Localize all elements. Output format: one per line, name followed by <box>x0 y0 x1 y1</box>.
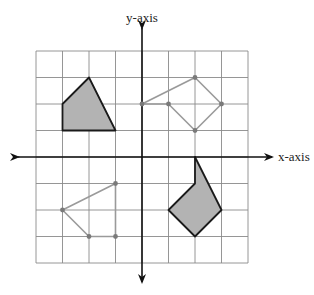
vertex-dot <box>113 181 118 186</box>
vertex-dot <box>140 102 145 107</box>
vertex-dot <box>113 234 118 239</box>
coordinate-plane: x-axis y-axis <box>0 0 314 295</box>
vertex-dot <box>193 75 198 80</box>
x-axis-label: x-axis <box>278 149 310 164</box>
vertex-dot <box>219 102 224 107</box>
vertex-dot <box>193 128 198 133</box>
shaded-polygon-quadrant-4 <box>169 157 222 237</box>
vertex-dot <box>87 234 92 239</box>
vertex-dot <box>60 208 65 213</box>
y-axis-label: y-axis <box>126 10 158 25</box>
vertex-dot <box>166 102 171 107</box>
